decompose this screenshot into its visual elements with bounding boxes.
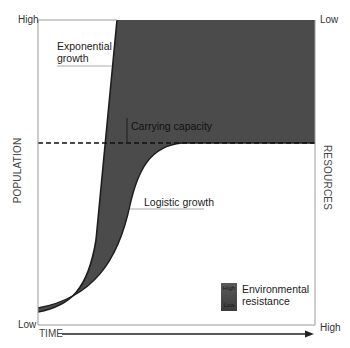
- resources-low-label: Low: [320, 14, 338, 25]
- logistic-growth-label: Logistic growth: [144, 196, 214, 208]
- exponential-growth-label-line2: growth: [57, 52, 112, 64]
- resources-axis-title: RESOURCES: [322, 143, 333, 213]
- legend-label-line1: Environmental: [242, 283, 309, 295]
- legend-label-line2: resistance: [242, 295, 309, 307]
- environmental-resistance-legend-swatch: High Low: [221, 283, 237, 311]
- exponential-growth-label: Exponential growth: [57, 40, 112, 64]
- population-high-label: High: [18, 14, 39, 25]
- population-axis-title: POPULATION: [12, 136, 23, 206]
- legend-scale-high: High: [221, 285, 237, 291]
- legend-scale-low: Low: [221, 302, 237, 308]
- resources-high-label: High: [320, 322, 341, 333]
- time-arrow-head: [305, 331, 314, 338]
- carrying-capacity-label: Carrying capacity: [131, 120, 212, 132]
- population-growth-diagram: High Low Low High POPULATION RESOURCES T…: [0, 0, 350, 348]
- environmental-resistance-legend-label: Environmental resistance: [242, 283, 309, 307]
- time-axis-title: TIME: [39, 328, 63, 339]
- population-low-label: Low: [18, 319, 36, 330]
- exponential-growth-label-line1: Exponential: [57, 40, 112, 52]
